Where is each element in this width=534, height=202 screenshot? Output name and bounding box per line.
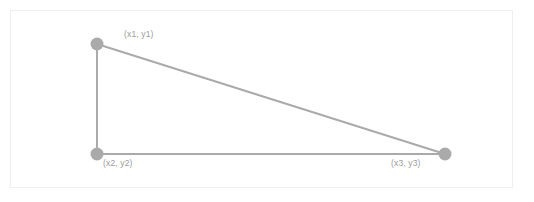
vertex-marker-p3[interactable] [439,148,452,161]
vertex-marker-p1[interactable] [91,38,104,51]
triangle-graphic [0,0,534,202]
vertex-marker-p2[interactable] [91,148,104,161]
triangle-diagram: (x1, y1) (x2, y2) (x3, y3) [0,0,534,202]
vertex-label-p3: (x3, y3) [391,158,421,169]
edge-hypotenuse [97,44,445,154]
vertex-label-p1: (x1, y1) [124,29,154,40]
vertex-label-p2: (x2, y2) [103,158,133,169]
